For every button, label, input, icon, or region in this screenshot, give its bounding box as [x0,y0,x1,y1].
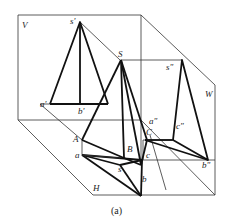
label-s-top: s [118,164,122,174]
projection-lines [40,22,182,190]
spatial-pyramid [82,60,147,165]
label-s-prime: s' [70,16,77,26]
label-b-double-prime: b" [202,160,211,170]
label-s-double-prime: s" [166,62,174,72]
label-b: b [142,174,147,184]
label-plane-h: H [92,183,100,193]
label-b-prime: b' [78,106,86,116]
figure-caption: (a) [111,205,122,217]
label-a: a [75,150,80,160]
label-C: C [146,127,153,137]
label-A: A [72,134,79,144]
top-view [82,155,142,196]
label-S: S [118,49,123,59]
side-view-triangle [145,60,208,160]
label-B: B [127,144,133,154]
label-plane-w: W [205,89,214,99]
label-a-prime: a' [40,99,48,109]
label-c: c [146,150,150,160]
label-plane-v: V [22,20,29,30]
front-view-triangle [50,22,108,104]
label-a-double-prime: a" [149,116,158,126]
plane-frames [18,15,215,195]
labels: V s' a' b' S s" W A a B s C a" c" c b" b… [22,16,214,217]
label-c-double-prime: c" [176,121,184,131]
projection-diagram: V s' a' b' S s" W A a B s C a" c" c b" b… [0,0,234,224]
